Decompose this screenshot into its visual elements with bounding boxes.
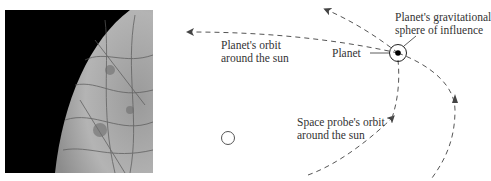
probe-outgoing-path bbox=[398, 53, 455, 178]
planet-dot bbox=[395, 50, 401, 56]
probe-orbit-label-line1: Space probe's orbit bbox=[297, 116, 385, 129]
sphere-label-line1: Planet's gravitational bbox=[395, 11, 491, 24]
planet-orbit-label-line1: Planet's orbit bbox=[221, 39, 289, 52]
planet-orbit-label: Planet's orbit around the sun bbox=[221, 39, 289, 65]
probe-orbit-label: Space probe's orbit around the sun bbox=[297, 116, 385, 142]
planet-label: Planet bbox=[332, 47, 361, 60]
sphere-label: Planet's gravitational sphere of influen… bbox=[395, 11, 491, 37]
sun-marker bbox=[222, 132, 235, 145]
sphere-label-line2: sphere of influence bbox=[395, 24, 491, 37]
probe-orbit-label-line2: around the sun bbox=[297, 129, 385, 142]
planet-orbit-label-line2: around the sun bbox=[221, 52, 289, 65]
